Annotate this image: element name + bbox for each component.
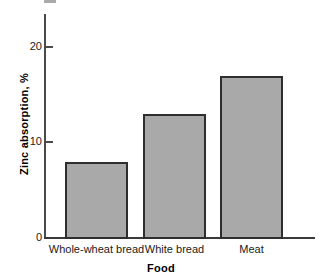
- y-tick-mark-10: [46, 141, 53, 143]
- bar-chart-figure: 20 10 0 Whole-wheat bread White bread Me…: [0, 0, 322, 280]
- x-category-label-white-bread: White bread: [133, 243, 216, 256]
- y-axis-title: Zinc absorption, %: [18, 44, 30, 204]
- y-tick-label-0: 0: [14, 232, 42, 243]
- y-tick-mark-20: [46, 46, 53, 48]
- x-category-label-meat: Meat: [220, 243, 283, 256]
- y-tick-label-0-wrap: 0: [8, 232, 42, 243]
- bar-meat[interactable]: [220, 76, 283, 239]
- x-axis-title: Food: [0, 262, 322, 274]
- cropped-caption-artifact: [44, 0, 56, 3]
- bar-white-bread[interactable]: [143, 114, 206, 239]
- bar-whole-wheat-bread[interactable]: [65, 162, 128, 239]
